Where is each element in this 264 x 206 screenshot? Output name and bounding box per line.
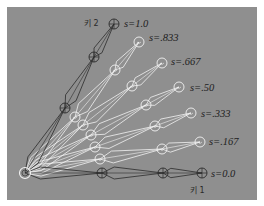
s-label: s=0.0 bbox=[211, 168, 236, 179]
s-label: s=.50 bbox=[190, 82, 215, 93]
s-label: s=.833 bbox=[149, 32, 179, 43]
s-label: s=.167 bbox=[209, 136, 239, 147]
interpolation-diagram: s=0.0키 1s=.167s=.333s=.50s=.667s=.833s=1… bbox=[0, 0, 264, 206]
key-label: 키 2 bbox=[84, 19, 99, 28]
key-label: 키 1 bbox=[190, 186, 205, 195]
s-label: s=.667 bbox=[171, 56, 201, 67]
s-label: s=1.0 bbox=[124, 18, 149, 29]
s-label: s=.333 bbox=[201, 108, 231, 119]
